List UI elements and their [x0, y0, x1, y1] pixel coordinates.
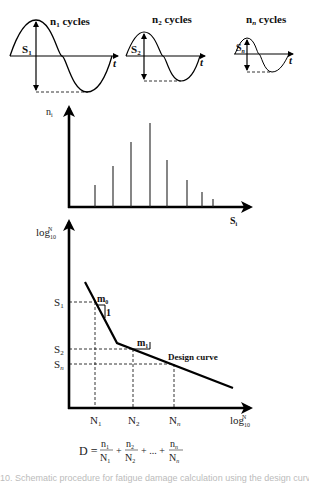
amplitude-label: Sn [236, 42, 246, 54]
s1-label: S1 [54, 296, 64, 310]
amplitude-label: S2 [131, 43, 141, 57]
sn-y-label: log10N [36, 226, 56, 240]
cycle-count-label: nn cycles [246, 13, 287, 27]
term-n-denominator: Nn [169, 452, 179, 464]
sn-label: Sn [54, 358, 64, 372]
s2-label: S2 [54, 343, 64, 357]
sn-x-label: log10N [230, 414, 250, 428]
design-curve-label: Design curve [168, 352, 218, 362]
formula-lhs: D = [79, 444, 98, 458]
figure-caption: 10. Schematic procedure for fatigue dama… [0, 473, 309, 483]
ellipsis: + ... + [141, 445, 165, 456]
stress-histogram: ni Si [46, 106, 250, 227]
sine-wave [235, 38, 289, 72]
cycle-count-label: n2 cycles [152, 13, 193, 27]
n1-label: N1 [90, 414, 102, 428]
term-1-numerator: n1 [101, 438, 109, 450]
histogram-x-label: Si [230, 215, 238, 227]
time-label: t [289, 54, 293, 66]
histogram-y-label: ni [46, 106, 53, 118]
slope-run-label: 1 [106, 307, 111, 318]
term-1-denominator: N1 [100, 452, 110, 464]
cycle-panel-n: nn cycles Sn t [234, 13, 293, 72]
n2-label: N2 [128, 414, 140, 428]
fatigue-diagram: n1 cycles S1 t n2 cycles S2 t nn cycles … [0, 0, 309, 483]
term-2-denominator: N2 [125, 452, 135, 464]
slope-label-m1: m1 [137, 337, 148, 349]
plus-sign: + [116, 445, 122, 456]
term-n-numerator: nn [170, 438, 178, 450]
cycle-panel-2: n2 cycles S2 t [126, 13, 205, 81]
slope-label-m0: m0 [97, 293, 108, 305]
nn-label: Nn [169, 414, 181, 428]
cycle-panel-1: n1 cycles S1 t [10, 15, 118, 92]
time-label: t [200, 56, 204, 68]
cycle-count-label: n1 cycles [50, 15, 91, 29]
design-curve [85, 282, 233, 388]
histogram-bars [95, 123, 213, 207]
amplitude-label: S1 [22, 43, 32, 57]
miner-rule-formula: D = n1 N1 + n2 N2 + ... + nn Nn [79, 438, 183, 464]
term-2-numerator: n2 [126, 438, 134, 450]
sn-curve-plot: m0 1 m1 Design curve S1 S2 Sn N1 N2 Nn l… [36, 222, 250, 428]
time-label: t [113, 57, 117, 69]
